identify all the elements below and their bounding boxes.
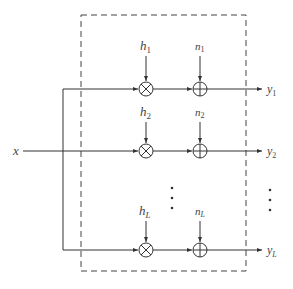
branch-row-1: h1 n1 y1	[63, 38, 276, 98]
svg-text:hL: hL	[139, 203, 151, 220]
svg-text:n1: n1	[195, 40, 205, 54]
svg-text:yL: yL	[266, 243, 277, 259]
branch-row-2: h2 n2 y2	[63, 104, 276, 160]
input-label: x	[12, 143, 19, 158]
svg-text:h1: h1	[140, 38, 151, 55]
svg-text:h2: h2	[140, 104, 151, 121]
system-boundary-box	[81, 15, 246, 271]
svg-text:nL: nL	[195, 205, 206, 219]
ellipsis-dots	[171, 187, 272, 212]
svg-text:y2: y2	[266, 144, 276, 160]
channel-diagram: x h1 n1 y1 h2 n2 y2	[0, 0, 293, 289]
branch-row-L: hL nL yL	[63, 203, 277, 259]
svg-text:n2: n2	[195, 106, 205, 120]
svg-text:y1: y1	[266, 82, 276, 98]
